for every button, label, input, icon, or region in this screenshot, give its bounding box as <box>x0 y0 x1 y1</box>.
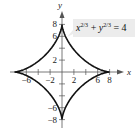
y-tick-label: 2 <box>53 55 58 65</box>
y-axis-arrow <box>60 11 65 18</box>
x-tick-label: 2 <box>72 75 77 85</box>
equation-pointer <box>67 30 73 37</box>
x-axis-arrow <box>117 70 124 75</box>
y-axis-label: y <box>57 0 62 10</box>
y-tick-label: 8 <box>53 19 58 29</box>
x-tick-label: 8 <box>107 75 112 85</box>
astroid-plot: −6−2268862−6−8xy <box>0 0 139 134</box>
y-tick-label: −8 <box>47 115 57 125</box>
x-axis-label: x <box>126 67 131 77</box>
x-tick-label: −2 <box>45 75 55 85</box>
